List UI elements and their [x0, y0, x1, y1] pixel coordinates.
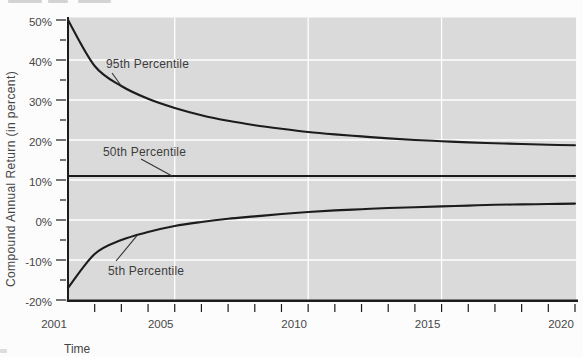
annotation-5th-percentile: 5th Percentile [108, 264, 184, 278]
x-tick-label: 2001 [32, 317, 76, 331]
y-tick-label: -20% [8, 295, 52, 309]
x-tick-label: 2020 [539, 317, 583, 331]
y-tick-label: 0% [8, 215, 52, 229]
x-axis-title: Time [64, 342, 90, 356]
y-tick-label: 30% [8, 95, 52, 109]
y-tick-label: 50% [8, 15, 52, 29]
annotation-50th-percentile: 50th Percentile [103, 145, 186, 159]
x-tick-label: 2005 [139, 317, 183, 331]
y-tick-label: 40% [8, 55, 52, 69]
y-tick-label: 20% [8, 135, 52, 149]
compound-return-percentile-chart [0, 0, 583, 357]
y-tick-label: -10% [8, 255, 52, 269]
x-tick-label: 2015 [406, 317, 450, 331]
percentile-returns-figure: Compound Annual Return (in percent) Time… [0, 0, 583, 357]
y-tick-label: 10% [8, 175, 52, 189]
x-tick-label: 2010 [272, 317, 316, 331]
annotation-95th-percentile: 95th Percentile [106, 57, 189, 71]
